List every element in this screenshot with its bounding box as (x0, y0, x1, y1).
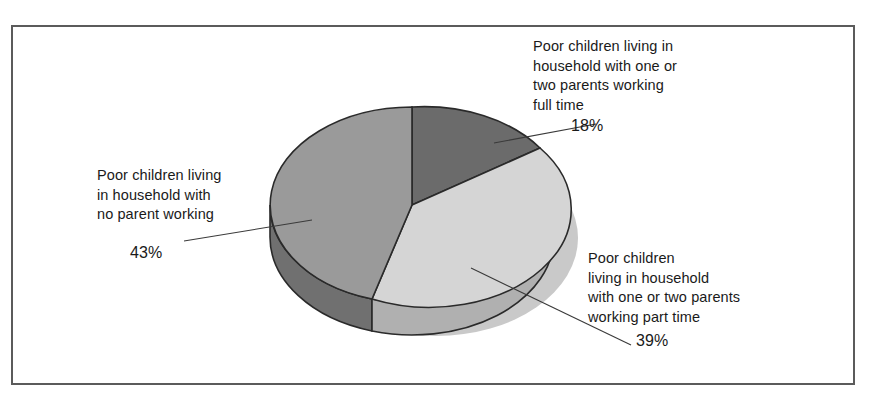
callout-label-part-time: Poor children living in household with o… (588, 249, 803, 327)
callout-label-no-parent: Poor children living in household with n… (97, 166, 302, 225)
callout-label-full-time: Poor children living in household with o… (533, 37, 748, 115)
callout-value-no-parent: 43% (130, 244, 162, 262)
callout-value-full-time: 18% (571, 117, 603, 135)
pie-chart-figure: Poor children living in household with o… (0, 0, 872, 402)
callout-value-part-time: 39% (636, 332, 668, 350)
